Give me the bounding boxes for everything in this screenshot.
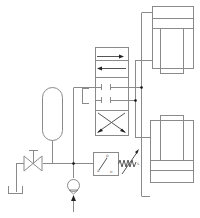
crossed-arrows-icon bbox=[97, 113, 126, 133]
flow-arrow-left-icon bbox=[97, 67, 126, 71]
supply-line bbox=[43, 88, 96, 179]
pump-icon bbox=[68, 180, 80, 213]
cylinder-bottom bbox=[151, 116, 194, 183]
cylinder-lines bbox=[129, 13, 153, 197]
shutoff-valve bbox=[16, 151, 42, 193]
junction-dot bbox=[72, 162, 75, 165]
valve-bracket bbox=[83, 88, 90, 104]
blocked-ports-icon bbox=[96, 84, 129, 103]
directional-valve bbox=[96, 48, 129, 136]
switch-label-p: p bbox=[106, 153, 109, 158]
spring-label: s bbox=[137, 161, 139, 166]
pressure-switch: p a o bbox=[94, 153, 119, 176]
flow-arrow-right-icon bbox=[97, 55, 124, 59]
hydraulic-schematic: p a o s bbox=[0, 0, 200, 218]
switch-label-o: o bbox=[110, 169, 113, 174]
tank-icon bbox=[9, 186, 23, 194]
accumulator bbox=[43, 88, 63, 164]
cylinder-top bbox=[153, 7, 194, 74]
adjustable-spring-icon: s bbox=[119, 149, 140, 174]
